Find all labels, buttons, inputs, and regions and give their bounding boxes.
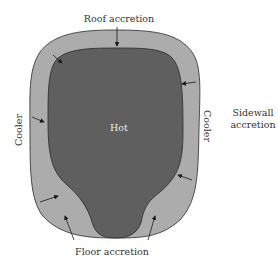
furnace-accretion-diagram: Roof accretion Hot Cooler Cooler Sidewal… bbox=[0, 0, 278, 269]
sidewall-accretion-label-line1: Sidewall bbox=[232, 107, 273, 118]
cooler-right-label: Cooler bbox=[202, 110, 213, 142]
cooler-left-label: Cooler bbox=[13, 114, 24, 146]
floor-accretion-label: Floor accretion bbox=[75, 246, 149, 257]
hot-label: Hot bbox=[110, 122, 128, 133]
roof-accretion-label: Roof accretion bbox=[84, 13, 154, 24]
sidewall-accretion-label-line2: accretion bbox=[230, 119, 275, 130]
